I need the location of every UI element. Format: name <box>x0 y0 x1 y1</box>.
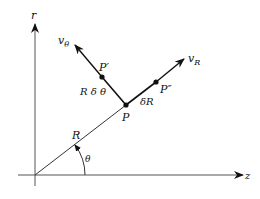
v-theta-subscript: θ <box>64 40 69 49</box>
arc-displacement-label: R δ θ <box>79 86 106 97</box>
r-axis-label: r <box>31 9 37 22</box>
v-r-subscript: R <box>193 58 200 67</box>
v-r-label: vR <box>188 52 200 67</box>
point-p <box>123 102 128 107</box>
polar-velocity-diagram: r z vθ vR P′ P″ P R δ θ δR R θ <box>0 0 260 199</box>
z-axis-label: z <box>244 170 251 181</box>
radius-line <box>35 105 126 175</box>
point-p-label: P <box>121 111 130 124</box>
point-p-double-prime <box>153 79 158 84</box>
point-p-prime <box>99 74 104 79</box>
diagram-svg: r z vθ vR P′ P″ P R δ θ δR R θ <box>0 0 260 199</box>
v-theta-label: vθ <box>58 34 69 49</box>
radial-displacement-label: δR <box>140 96 154 107</box>
v-theta-arrow <box>75 45 102 77</box>
angle-arc <box>75 145 85 175</box>
point-p-double-prime-label: P″ <box>159 83 172 96</box>
radius-label: R <box>71 129 80 142</box>
angle-label: θ <box>85 154 91 164</box>
v-r-arrow <box>156 59 184 82</box>
point-p-prime-label: P′ <box>98 61 109 74</box>
